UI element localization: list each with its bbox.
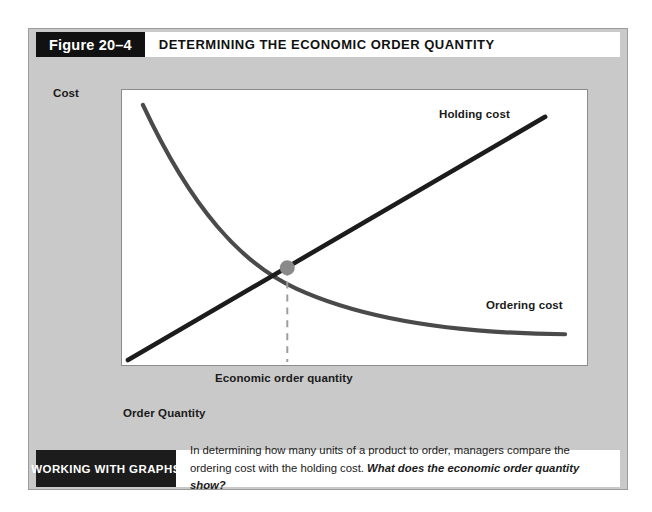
eoq-marker-dot <box>280 260 295 275</box>
chart-svg <box>122 90 587 365</box>
ordering-cost-label: Ordering cost <box>486 299 563 311</box>
y-axis-label: Cost <box>53 87 79 99</box>
figure-header: Figure 20–4 DETERMINING THE ECONOMIC ORD… <box>36 32 620 57</box>
figure-number-label: Figure 20–4 <box>36 32 145 57</box>
figure-title: DETERMINING THE ECONOMIC ORDER QUANTITY <box>145 32 620 57</box>
plot-area <box>121 89 588 366</box>
economic-order-quantity-label: Economic order quantity <box>215 372 353 384</box>
figure-panel: Figure 20–4 DETERMINING THE ECONOMIC ORD… <box>28 28 628 490</box>
holding-cost-line <box>128 117 545 360</box>
caption-body: In determining how many units of a produ… <box>176 450 620 487</box>
caption-tag: WORKING WITH GRAPHS <box>36 450 176 487</box>
x-axis-label: Order Quantity <box>123 407 206 419</box>
caption-strip: WORKING WITH GRAPHS In determining how m… <box>36 450 620 487</box>
holding-cost-label: Holding cost <box>439 108 510 120</box>
